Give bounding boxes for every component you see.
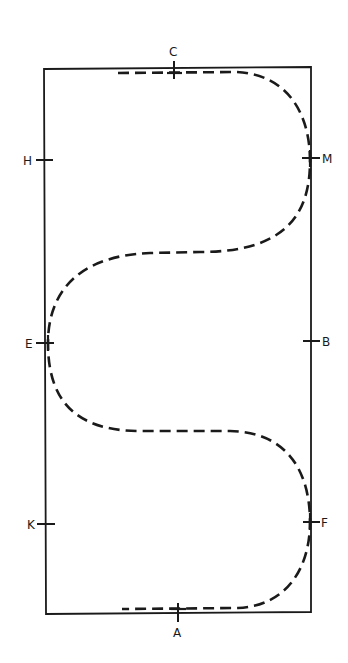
marker-e: E — [25, 335, 54, 351]
marker-m-label: M — [322, 152, 332, 166]
arena-diagram: C H M E B K F A — [0, 0, 348, 663]
marker-b-label: B — [322, 335, 330, 349]
marker-m: M — [302, 150, 332, 167]
marker-a: A — [171, 603, 186, 640]
marker-h-label: H — [23, 154, 32, 168]
marker-e-label: E — [25, 337, 33, 351]
marker-c-label: C — [169, 45, 177, 59]
serpentine-route — [48, 72, 310, 609]
marker-c: C — [167, 45, 182, 79]
marker-a-label: A — [173, 626, 182, 640]
marker-b: B — [303, 335, 330, 349]
marker-h: H — [23, 154, 53, 168]
marker-f-label: F — [321, 516, 328, 530]
marker-k-label: K — [27, 518, 36, 532]
marker-k: K — [27, 518, 55, 532]
marker-f: F — [303, 513, 328, 530]
arena-boundary — [44, 67, 311, 614]
